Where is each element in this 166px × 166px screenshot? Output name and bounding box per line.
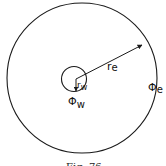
inner-potential-label: Φw <box>68 95 85 110</box>
inner-radius-label: rw <box>77 80 88 92</box>
outer-radius-label: re <box>107 60 118 73</box>
figure-caption: Fig. 76 <box>66 161 102 166</box>
outer-boundary-circle <box>7 3 157 153</box>
outer-potential-label: Φe <box>148 81 163 95</box>
radial-flow-diagram: re rw Φe Φw Fig. 76 <box>0 0 166 166</box>
